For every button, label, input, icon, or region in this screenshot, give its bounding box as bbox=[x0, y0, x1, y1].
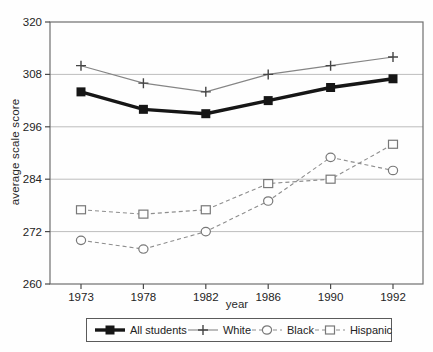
plus-marker bbox=[201, 87, 211, 97]
x-tick-label: 1986 bbox=[255, 291, 281, 303]
x-tick-label: 1992 bbox=[380, 291, 406, 303]
open-circle-marker bbox=[76, 236, 85, 244]
open-square-marker bbox=[325, 326, 334, 334]
filled-square-marker bbox=[389, 74, 398, 83]
legend-item-white: White bbox=[187, 323, 251, 337]
y-tick-label: 296 bbox=[23, 121, 42, 133]
open-circle-marker bbox=[201, 227, 210, 235]
legend-item-black: Black bbox=[251, 323, 314, 337]
plus-marker bbox=[388, 52, 398, 62]
x-tick-label: 1978 bbox=[131, 291, 157, 303]
series-line-all-students bbox=[81, 79, 393, 114]
filled-square-marker bbox=[139, 105, 148, 114]
filled-square-marker bbox=[77, 87, 86, 96]
legend-sample-white bbox=[187, 323, 219, 337]
plus-marker bbox=[76, 61, 86, 71]
filled-square-marker bbox=[264, 96, 273, 105]
x-tick-label: 1990 bbox=[318, 291, 344, 303]
plus-marker bbox=[263, 69, 273, 79]
legend-label-black: Black bbox=[287, 324, 314, 336]
chart: 2602722842963083201973197819821986199019… bbox=[0, 0, 433, 352]
legend-sample-hispanic bbox=[314, 323, 346, 337]
plus-marker bbox=[138, 78, 148, 88]
open-circle-marker bbox=[262, 326, 271, 334]
filled-square-marker bbox=[201, 109, 210, 118]
plus-marker bbox=[326, 61, 336, 71]
open-circle-marker bbox=[326, 153, 335, 161]
open-square-marker bbox=[77, 206, 86, 214]
open-circle-marker bbox=[264, 197, 273, 205]
series-line-black bbox=[81, 157, 393, 249]
x-tick-label: 1973 bbox=[68, 291, 94, 303]
legend-label-hispanic: Hispanic bbox=[350, 324, 392, 336]
open-square-marker bbox=[201, 206, 210, 214]
open-square-marker bbox=[139, 210, 148, 218]
x-axis-title: year bbox=[226, 298, 248, 310]
y-tick-label: 284 bbox=[23, 173, 43, 185]
open-circle-marker bbox=[139, 245, 148, 253]
x-tick-label: 1982 bbox=[193, 291, 219, 303]
plot-frame bbox=[50, 22, 423, 284]
legend-item-hispanic: Hispanic bbox=[314, 323, 392, 337]
legend-sample-black bbox=[251, 323, 283, 337]
open-square-marker bbox=[326, 175, 335, 183]
open-square-marker bbox=[264, 180, 273, 188]
legend-sample-all-students bbox=[94, 323, 126, 337]
y-tick-label: 272 bbox=[23, 226, 42, 238]
legend-item-all-students: All students bbox=[94, 323, 187, 337]
open-square-marker bbox=[389, 140, 398, 148]
plot-area: 2602722842963083201973197819821986199019… bbox=[0, 0, 433, 352]
filled-square-marker bbox=[106, 326, 115, 335]
y-tick-label: 320 bbox=[23, 16, 42, 28]
legend-label-white: White bbox=[223, 324, 251, 336]
plus-marker bbox=[198, 325, 208, 335]
y-tick-label: 260 bbox=[23, 278, 42, 290]
open-circle-marker bbox=[388, 166, 397, 174]
legend-label-all-students: All students bbox=[130, 324, 187, 336]
y-axis-title: average scale score bbox=[9, 99, 21, 206]
filled-square-marker bbox=[326, 83, 335, 92]
y-tick-label: 308 bbox=[23, 68, 42, 80]
legend: All studentsWhiteBlackHispanic bbox=[86, 318, 392, 342]
